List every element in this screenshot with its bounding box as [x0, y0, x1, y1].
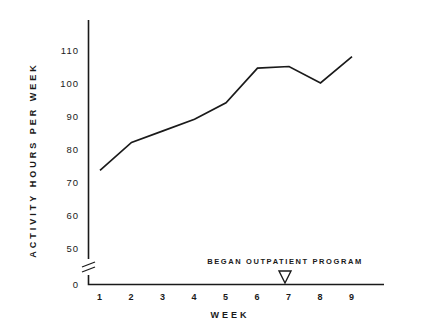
x-tick-label: 8 — [317, 292, 323, 302]
began-outpatient-program-marker — [279, 271, 291, 283]
x-tick-label: 6 — [254, 292, 260, 302]
y-tick-label: 50 — [66, 243, 79, 254]
annotation-label: BEGAN OUTPATIENT PROGRAM — [207, 257, 363, 266]
x-axis-line — [89, 275, 385, 285]
y-tick-label: 70 — [66, 177, 79, 188]
x-tick-label: 4 — [191, 292, 197, 302]
x-tick-label: 9 — [349, 292, 355, 302]
data-series-line — [100, 57, 352, 171]
line-chart: 110 100 90 80 70 60 50 0 1 2 3 4 5 6 7 8… — [0, 0, 428, 334]
x-tick-label: 1 — [97, 292, 103, 302]
axis-break-marks — [82, 262, 95, 272]
x-tick-label: 5 — [223, 292, 229, 302]
chart-container: 110 100 90 80 70 60 50 0 1 2 3 4 5 6 7 8… — [0, 0, 428, 334]
y-tick-label: 100 — [60, 78, 79, 89]
y-tick-labels: 110 100 90 80 70 60 50 0 — [60, 45, 79, 290]
x-tick-label: 7 — [286, 292, 292, 302]
y-axis-title: ACTIVITY HOURS PER WEEK — [28, 62, 38, 257]
x-tick-labels: 1 2 3 4 5 6 7 8 9 — [97, 292, 355, 302]
y-tick-label: 60 — [66, 210, 79, 221]
x-tick-label: 2 — [128, 292, 134, 302]
x-tick-label: 3 — [160, 292, 166, 302]
y-tick-label: 80 — [66, 144, 79, 155]
x-axis-title: WEEK — [211, 310, 250, 320]
y-tick-label: 0 — [73, 279, 79, 290]
y-tick-label: 90 — [66, 111, 79, 122]
y-tick-label: 110 — [61, 45, 79, 56]
